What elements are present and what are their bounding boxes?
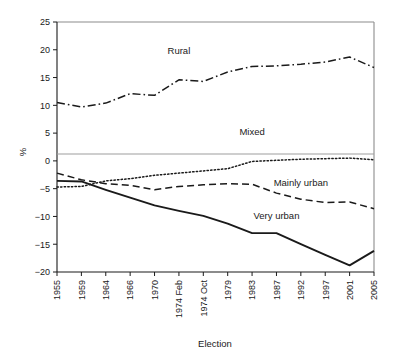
chart-background — [0, 0, 394, 356]
x-tick-label: 1955 — [52, 280, 62, 300]
series-annotation-very-urban: Very urban — [253, 210, 299, 221]
x-tick-label: 1974 Feb — [174, 280, 184, 318]
chart-figure: −20−15−10−50510152025 195519591964196619… — [0, 0, 394, 356]
x-tick-label: 1966 — [125, 280, 135, 300]
x-tick-label: 2005 — [369, 280, 379, 300]
x-tick-label: 1979 — [223, 280, 233, 300]
x-tick-label: 1983 — [247, 280, 257, 300]
y-axis-title: % — [17, 147, 28, 156]
series-annotation-mixed: Mixed — [239, 126, 264, 137]
series-annotation-rural: Rural — [168, 45, 191, 56]
y-tick-label: 25 — [40, 17, 50, 27]
x-tick-label: 2001 — [345, 280, 355, 300]
y-tick-label: 0 — [45, 156, 50, 166]
y-tick-label: 15 — [40, 73, 50, 83]
x-tick-label: 1970 — [150, 280, 160, 300]
x-axis-title: Election — [198, 338, 232, 349]
x-tick-label: 1997 — [321, 280, 331, 300]
x-tick-label: 1992 — [296, 280, 306, 300]
y-tick-label: −10 — [35, 212, 50, 222]
y-tick-label: −5 — [40, 184, 50, 194]
x-tick-label: 1959 — [77, 280, 87, 300]
series-annotation-mainly-urban: Mainly urban — [274, 177, 328, 188]
x-tick-label: 1987 — [272, 280, 282, 300]
y-tick-label: −20 — [35, 267, 50, 277]
y-tick-label: 10 — [40, 101, 50, 111]
y-tick-label: 20 — [40, 45, 50, 55]
x-tick-label: 1974 Oct — [199, 280, 209, 317]
y-tick-label: 5 — [45, 128, 50, 138]
line-chart-svg: −20−15−10−50510152025 195519591964196619… — [0, 0, 394, 356]
y-tick-label: −15 — [35, 240, 50, 250]
x-tick-label: 1964 — [101, 280, 111, 300]
